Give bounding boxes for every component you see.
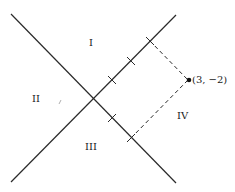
- region-label-iv: IV: [177, 111, 188, 121]
- dashed-projection-lower: [131, 80, 188, 138]
- region-label-ii: II: [32, 94, 40, 104]
- region-label-i: I: [89, 38, 93, 48]
- point-marker: [187, 78, 192, 83]
- point-label: (3, −2): [192, 75, 227, 85]
- stray-mark: [59, 100, 61, 104]
- region-label-iii: III: [85, 142, 97, 152]
- dashed-projection-upper: [150, 41, 188, 80]
